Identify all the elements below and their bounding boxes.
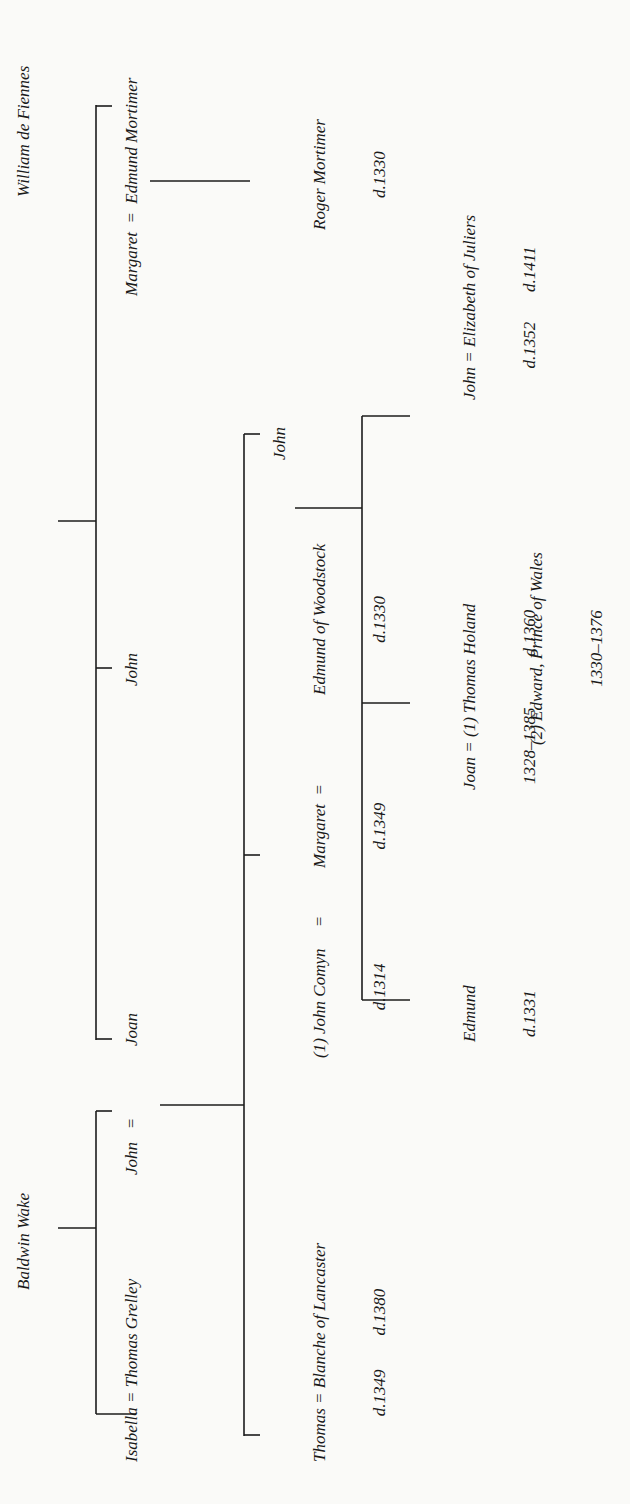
person-roger-mortimer: Roger Mortimer d.1330: [270, 119, 410, 230]
person-edmund-gen4: Edmund d.1331: [420, 985, 560, 1042]
dates: d.1314: [370, 916, 390, 1058]
person-margaret-gen3: Margaret = d.1349: [270, 784, 410, 868]
person-william-de-fiennes: William de Fiennes: [14, 66, 34, 197]
dates: d.1331: [520, 985, 540, 1042]
couple-thomas-blanche-of-lancaster: Thomas = Blanche of Lancaster d.1349 d.1…: [270, 1243, 410, 1462]
name: Thomas = Blanche of Lancaster: [310, 1243, 330, 1462]
name: (2) Edward, Prince of Wales: [527, 552, 547, 745]
person-joan: Joan: [122, 1013, 142, 1046]
person-edward-prince-of-wales: (2) Edward, Prince of Wales 1330–1376: [487, 552, 627, 745]
dates: d.1349: [370, 784, 390, 868]
dates: d.1330: [370, 544, 390, 695]
name: Joan = (1) Thomas Holand: [460, 604, 480, 790]
couple-margaret-edmund-mortimer: Margaret = Edmund Mortimer: [122, 78, 142, 296]
couple-john-elizabeth-of-juliers: John = Elizabeth of Juliers d.1352 d.141…: [420, 215, 560, 400]
name: John = Elizabeth of Juliers: [460, 215, 480, 400]
couple-isabella-thomas-grelley: Isabella = Thomas Grelley: [122, 1279, 142, 1462]
dates: d.1330: [370, 119, 390, 230]
dates: d.1349 d.1380: [370, 1243, 390, 1462]
name: Edmund: [460, 985, 480, 1042]
person-john-wake: John =: [122, 1118, 142, 1175]
person-john-fiennes: John: [122, 653, 142, 686]
name: Edmund of Woodstock: [310, 544, 330, 695]
person-baldwin-wake: Baldwin Wake: [14, 1193, 34, 1290]
name: (1) John Comyn =: [310, 916, 330, 1058]
dates: 1330–1376: [587, 552, 607, 745]
name: Roger Mortimer: [310, 119, 330, 230]
name: Margaret =: [310, 784, 330, 868]
person-john-gen3: John: [270, 427, 290, 460]
person-edmund-of-woodstock: Edmund of Woodstock d.1330: [270, 544, 410, 695]
dates: d.1352 d.1411: [520, 215, 540, 400]
person-john-comyn: (1) John Comyn = d.1314: [270, 916, 410, 1058]
